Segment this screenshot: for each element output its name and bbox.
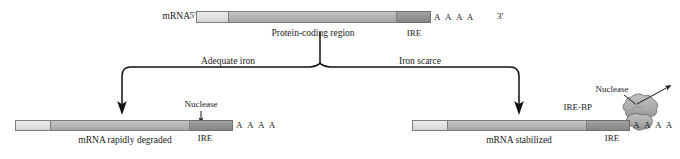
- polya-tail-right: A A A A: [633, 121, 674, 130]
- iron-scarce-label: Iron scarce: [399, 57, 441, 67]
- mrna-stabilized-caption: mRNA stabilized: [486, 136, 552, 146]
- utr-segment-left: [15, 120, 51, 131]
- utr-segment-right: [412, 120, 448, 131]
- polya-tail-top: A A A A: [434, 13, 475, 22]
- branch-connector: [122, 32, 519, 104]
- coding-segment-right: [448, 120, 587, 131]
- coding-segment-top: [229, 11, 397, 23]
- nuclease-label-right: Nuclease: [596, 85, 629, 94]
- adequate-iron-label: Adequate iron: [201, 57, 255, 67]
- ire-label-top: IRE: [407, 29, 422, 38]
- polya-tail-left: A A A A: [236, 121, 277, 130]
- ire-segment-left: [190, 120, 233, 131]
- ire-label-right: IRE: [605, 134, 620, 143]
- mrna-degraded-caption: mRNA rapidly degraded: [78, 136, 171, 146]
- ire-segment-top: [397, 11, 431, 23]
- ire-bp-label: IRE-BP: [563, 103, 592, 112]
- coding-segment-left: [51, 120, 190, 131]
- protein-coding-region-label: Protein-coding region: [271, 29, 354, 39]
- ire-label-left: IRE: [198, 134, 213, 143]
- nuclease-label-left: Nuclease: [185, 100, 218, 109]
- utr-segment-top: [196, 11, 229, 23]
- three-prime-label-top: 3′: [497, 12, 503, 21]
- ire-segment-right: [587, 120, 630, 131]
